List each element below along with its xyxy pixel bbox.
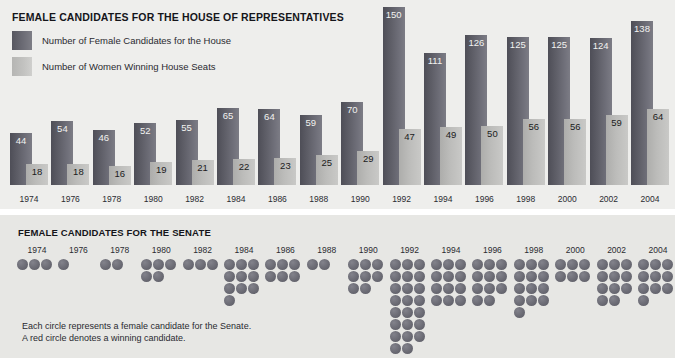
senate-candidate-circle-icon — [567, 259, 578, 270]
bar-winners: 47 — [399, 129, 421, 185]
bar-value-candidates: 59 — [300, 117, 322, 128]
senate-candidate-circle-icon — [443, 271, 454, 282]
bar-winners: 56 — [564, 119, 586, 185]
bar-value-winners: 25 — [316, 157, 338, 168]
senate-candidate-circle-icon — [414, 283, 425, 294]
bar-winners: 25 — [316, 155, 338, 185]
bar-value-candidates: 55 — [176, 122, 198, 133]
senate-year-label: 1976 — [57, 245, 99, 255]
house-year-label: 1974 — [10, 194, 48, 204]
senate-candidate-circle-icon — [514, 271, 525, 282]
senate-candidate-circle-icon — [248, 271, 259, 282]
senate-candidate-circle-icon — [472, 259, 483, 270]
senate-candidate-circle-icon — [526, 259, 537, 270]
bar-value-candidates: 65 — [217, 110, 239, 121]
senate-year-column: 1998 — [513, 245, 555, 319]
senate-candidate-circle-icon — [662, 283, 673, 294]
bar-winners: 56 — [523, 119, 545, 185]
bar-winners: 64 — [647, 109, 669, 185]
bar-value-candidates: 52 — [134, 125, 156, 136]
bar-winners: 49 — [440, 127, 462, 185]
bar-value-winners: 50 — [481, 128, 503, 139]
senate-candidate-circle-icon — [414, 271, 425, 282]
senate-candidate-circle-icon — [514, 283, 525, 294]
house-year-label: 1986 — [258, 194, 296, 204]
senate-candidate-circle-icon — [455, 295, 466, 306]
senate-candidate-circle-icon — [277, 271, 288, 282]
senate-candidate-circle-icon — [526, 295, 537, 306]
senate-candidate-circle-icon — [431, 295, 442, 306]
bar-value-candidates: 126 — [465, 37, 487, 48]
senate-note-line-1: Each circle represents a female candidat… — [22, 320, 251, 332]
senate-candidate-circle-icon — [472, 283, 483, 294]
senate-candidate-circle-icon — [153, 259, 164, 270]
senate-candidate-circle-icon — [277, 259, 288, 270]
senate-candidate-circle-icon — [348, 259, 359, 270]
bar-value-winners: 47 — [399, 131, 421, 142]
bar-value-candidates: 70 — [341, 104, 363, 115]
senate-candidate-circle-icon — [402, 271, 413, 282]
senate-year-column: 2002 — [596, 245, 638, 307]
senate-candidate-circle-icon — [514, 295, 525, 306]
senate-candidate-circle-icon — [662, 259, 673, 270]
senate-candidate-circle-icon — [414, 331, 425, 342]
senate-candidate-circle-icon — [402, 331, 413, 342]
senate-candidate-circle-icon — [224, 295, 235, 306]
senate-candidate-circle-icon — [165, 259, 176, 270]
senate-candidate-circle-icon — [236, 259, 247, 270]
senate-candidate-circle-icon — [484, 271, 495, 282]
senate-candidate-circle-icon — [390, 271, 401, 282]
senate-candidate-circle-icon — [141, 259, 152, 270]
senate-candidate-circle-icon — [526, 271, 537, 282]
house-year-label: 1978 — [93, 194, 131, 204]
bar-winners: 50 — [481, 126, 503, 185]
senate-year-label: 1982 — [182, 245, 224, 255]
bar-winners: 23 — [274, 158, 296, 185]
senate-candidate-circle-icon — [609, 259, 620, 270]
bar-value-candidates: 125 — [507, 39, 529, 50]
senate-dot-stack — [389, 259, 432, 355]
senate-candidate-circle-icon — [496, 283, 507, 294]
senate-candidate-circle-icon — [348, 271, 359, 282]
senate-dot-stack — [596, 259, 639, 307]
senate-candidate-circle-icon — [567, 271, 578, 282]
senate-year-column: 2004 — [637, 245, 675, 307]
senate-year-label: 1996 — [471, 245, 513, 255]
senate-candidate-circle-icon — [514, 259, 525, 270]
senate-dot-stack — [347, 259, 390, 295]
senate-year-label: 1992 — [389, 245, 431, 255]
infographic-root: FEMALE CANDIDATES FOR THE HOUSE OF REPRE… — [0, 0, 675, 358]
senate-dot-stack — [471, 259, 514, 307]
bar-value-candidates: 150 — [383, 9, 405, 20]
senate-candidate-circle-icon — [455, 271, 466, 282]
bar-winners: 22 — [233, 159, 255, 185]
bar-winners: 19 — [150, 162, 172, 185]
senate-candidate-circle-icon — [265, 259, 276, 270]
senate-candidate-circle-icon — [248, 259, 259, 270]
house-year-label: 1992 — [383, 194, 421, 204]
senate-candidate-circle-icon — [526, 283, 537, 294]
bar-value-candidates: 64 — [258, 111, 280, 122]
house-bar-chart: 4418197454181976461619785219198055211982… — [0, 0, 675, 209]
senate-candidate-circle-icon — [402, 307, 413, 318]
bar-value-winners: 64 — [647, 111, 669, 122]
bar-value-winners: 56 — [564, 121, 586, 132]
senate-candidate-circle-icon — [402, 283, 413, 294]
house-year-label: 2000 — [548, 194, 586, 204]
senate-candidate-circle-icon — [17, 259, 28, 270]
senate-candidate-circle-icon — [662, 271, 673, 282]
senate-year-label: 2004 — [637, 245, 675, 255]
senate-candidate-circle-icon — [638, 283, 649, 294]
senate-candidate-circle-icon — [402, 343, 413, 354]
senate-candidate-circle-icon — [609, 283, 620, 294]
senate-year-label: 1980 — [140, 245, 182, 255]
senate-candidate-circle-icon — [236, 271, 247, 282]
bar-value-winners: 49 — [440, 129, 462, 140]
bar-value-winners: 22 — [233, 161, 255, 172]
senate-dot-stack — [554, 259, 597, 283]
bar-value-candidates: 138 — [631, 23, 653, 34]
senate-dot-stack — [140, 259, 183, 283]
senate-candidate-circle-icon — [538, 259, 549, 270]
bar-winners: 21 — [192, 160, 214, 185]
senate-candidate-circle-icon — [443, 283, 454, 294]
